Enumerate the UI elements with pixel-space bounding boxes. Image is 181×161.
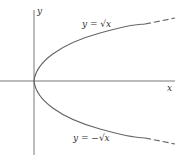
upper-curve [34, 24, 145, 81]
x-axis-label: x [167, 83, 172, 93]
y-axis-label: y [37, 6, 42, 16]
upper-curve-label: y = √x [82, 19, 111, 29]
upper-curve-dashed [145, 18, 175, 24]
lower-curve-label: y = −√x [73, 133, 110, 143]
lower-curve [34, 81, 145, 138]
lower-curve-dashed [145, 138, 175, 144]
